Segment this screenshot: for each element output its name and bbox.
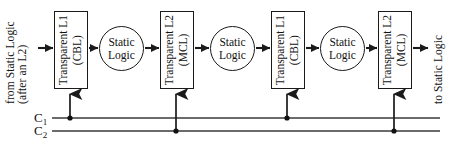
static-logic-circle-2-label: Static Logic [219,36,246,62]
static-logic-circle-1-label: Static Logic [108,36,135,62]
static-logic-circle-1-line1: Static [108,36,134,48]
input-source-label-line2: (after an L2) [16,45,28,104]
static-logic-circle-2-line2: Logic [219,49,246,61]
input-source-label: from Static Logic (after an L2) [4,8,28,104]
clock-feed-arrows [70,94,394,131]
latch-box-1-label: Transparent L1 (CBL) [57,15,84,85]
static-logic-circle-1-line2: Logic [108,49,135,61]
latch-box-4: Transparent L2 (MCL) [378,11,412,89]
latch-box-2: Transparent L2 (MCL) [160,11,194,89]
clock-label-c2: C2 [34,123,47,139]
static-logic-circle-1: Static Logic [99,26,144,71]
junction-dot-c2-latch4 [391,128,396,133]
latch-box-1: Transparent L1 (CBL) [54,11,88,89]
junction-dot-c1-latch1 [67,115,72,120]
clock-label-c2-sub: 2 [43,130,48,140]
latch-box-4-label: Transparent L2 (MCL) [381,15,408,85]
latch-box-3-line2: (CBL) [288,15,302,85]
latch-box-4-line2: (MCL) [395,15,409,85]
output-destination-label: to Static Logic [432,20,444,104]
static-logic-circle-3-label: Static Logic [329,36,356,62]
clock-bus-lines [52,118,440,131]
clock-label-c2-letter: C [34,123,43,138]
latch-box-2-line1: Transparent L2 [163,15,175,85]
latch-box-2-label: Transparent L2 (MCL) [163,15,190,85]
junction-dot-c2-latch2 [173,128,178,133]
latch-box-3-label: Transparent L1 (CBL) [274,15,301,85]
static-logic-circle-2-line1: Static [219,36,245,48]
clock-junction-dots [67,115,396,133]
static-logic-circle-3-line1: Static [329,36,355,48]
latch-box-3-line1: Transparent L1 [274,15,286,85]
static-logic-circle-2: Static Logic [210,26,255,71]
latch-box-1-line1: Transparent L1 [57,15,69,85]
static-logic-circle-3-line2: Logic [329,49,356,61]
static-logic-circle-3: Static Logic [320,26,365,71]
latch-pipeline-diagram: from Static Logic (after an L2) Transpar… [0,0,455,144]
latch-box-3: Transparent L1 (CBL) [271,11,305,89]
latch-box-1-line2: (CBL) [71,15,85,85]
input-source-label-line1: from Static Logic [4,21,16,104]
junction-dot-c1-latch3 [284,115,289,120]
latch-box-2-line2: (MCL) [177,15,191,85]
latch-box-4-line1: Transparent L2 [381,15,393,85]
